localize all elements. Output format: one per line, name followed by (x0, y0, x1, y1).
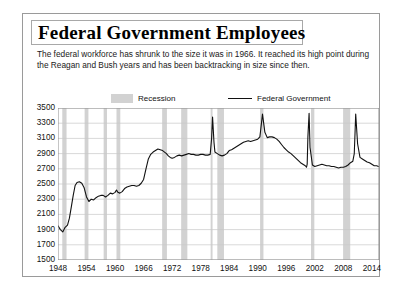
legend-label-recession: Recession (138, 94, 175, 103)
y-axis-tick-label: 1700 (25, 241, 55, 249)
page-title: Federal Government Employees (38, 22, 305, 44)
x-axis-labels: 1948195419601966197219781984199019962002… (58, 264, 379, 278)
y-axis-tick-label: 3100 (25, 134, 55, 142)
y-axis-tick-label: 2500 (25, 180, 55, 188)
y-axis-labels: 3500330031002900270025002300210019001700… (23, 14, 55, 260)
y-axis-tick-label: 2100 (25, 210, 55, 218)
plot-area (58, 108, 379, 260)
legend-label-federal-government: Federal Government (257, 94, 330, 103)
y-axis-tick-label: 3300 (25, 119, 55, 127)
x-axis-tick-label: 1954 (77, 264, 95, 274)
chart-subtitle: The federal workforce has shrunk to the … (37, 49, 371, 71)
chart-figure: Federal Government Employees The federal… (22, 13, 380, 277)
y-axis-tick-label: 2700 (25, 165, 55, 173)
legend-item-recession: Recession (111, 94, 175, 103)
x-axis-tick-label: 1990 (249, 264, 267, 274)
x-axis-tick-label: 2008 (334, 264, 352, 274)
y-axis-tick-label: 1500 (25, 256, 55, 264)
x-axis-tick-label: 1978 (192, 264, 210, 274)
legend-item-federal-government: Federal Government (228, 94, 330, 103)
recession-swatch-icon (111, 94, 133, 103)
x-axis-tick-label: 1966 (134, 264, 152, 274)
chart-legend: Recession Federal Government (23, 93, 381, 107)
x-axis-tick-label: 1972 (163, 264, 181, 274)
x-axis-tick-label: 1996 (277, 264, 295, 274)
x-axis-tick-label: 1948 (49, 264, 67, 274)
chart-svg (58, 108, 379, 260)
x-axis-tick-label: 1960 (106, 264, 124, 274)
y-axis-tick-label: 2300 (25, 195, 55, 203)
x-axis-tick-label: 2014 (363, 264, 381, 274)
y-axis-tick-label: 1900 (25, 226, 55, 234)
x-axis-tick-label: 2002 (306, 264, 324, 274)
y-axis-tick-label: 3500 (25, 104, 55, 112)
x-axis-tick-label: 1984 (220, 264, 238, 274)
y-axis-tick-label: 2900 (25, 150, 55, 158)
line-swatch-icon (228, 98, 252, 99)
chart-title-box: Federal Government Employees (31, 20, 303, 45)
